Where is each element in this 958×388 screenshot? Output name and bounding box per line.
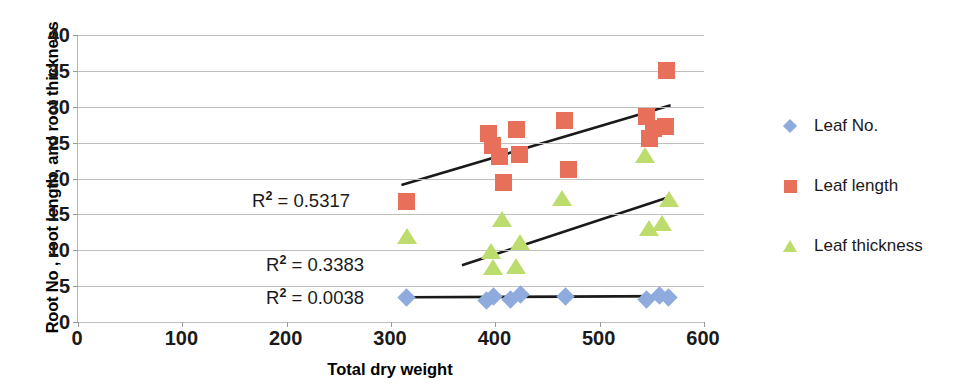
y-axis-tickmark <box>73 286 78 287</box>
legend-label: Leaf No. <box>814 116 878 136</box>
data-point-triangle <box>506 258 526 274</box>
square-glyph-icon <box>784 180 797 193</box>
legend-item-leaf-length[interactable]: Leaf length <box>778 156 953 216</box>
y-tick-label: 30 <box>30 97 70 117</box>
data-point-square <box>658 62 675 79</box>
legend-label: Leaf thickness <box>814 236 923 256</box>
gridline-horizontal <box>78 71 704 72</box>
data-point-triangle <box>492 211 512 227</box>
y-axis-tickmark <box>73 143 78 144</box>
r-squared-value: = 0.3383 <box>286 254 364 275</box>
gridline-horizontal <box>78 214 704 215</box>
plot-area <box>77 35 703 322</box>
x-tick-label: 0 <box>47 328 107 348</box>
y-tick-label: 20 <box>30 169 70 189</box>
y-axis-tickmark <box>73 179 78 180</box>
legend-item-leaf-no[interactable]: Leaf No. <box>778 96 953 156</box>
data-point-square <box>398 193 415 210</box>
x-tick-label: 300 <box>360 328 420 348</box>
diamond-glyph-icon <box>783 119 797 133</box>
data-point-square <box>511 146 528 163</box>
trendline <box>401 105 670 185</box>
data-point-triangle <box>652 215 672 231</box>
r-squared-annotation: R2 = 0.0038 <box>266 286 364 309</box>
data-point-square <box>508 121 525 138</box>
r-squared-value: = 0.5317 <box>272 190 350 211</box>
data-point-square <box>560 161 577 178</box>
r-squared-value: = 0.0038 <box>286 287 364 308</box>
legend-item-leaf-thickness[interactable]: Leaf thickness <box>778 216 953 276</box>
legend-marker-square-icon <box>778 180 802 193</box>
gridline-horizontal <box>78 250 704 251</box>
gridline-horizontal <box>78 179 704 180</box>
x-tick-label: 400 <box>464 328 524 348</box>
data-point-triangle <box>635 147 655 163</box>
triangle-glyph-icon <box>783 240 797 252</box>
legend-label: Leaf length <box>814 176 898 196</box>
r-squared-symbol: R <box>252 190 265 211</box>
y-axis-tickmark <box>73 35 78 36</box>
data-point-triangle <box>659 191 679 207</box>
y-axis-tickmark <box>73 107 78 108</box>
r-squared-annotation: R2 = 0.3383 <box>266 253 364 276</box>
data-point-square <box>641 130 658 147</box>
gridline-horizontal <box>78 286 704 287</box>
data-point-triangle <box>481 243 501 259</box>
y-axis-tickmark <box>73 250 78 251</box>
data-point-triangle <box>510 234 530 250</box>
legend-marker-diamond-icon <box>778 121 802 131</box>
gridline-horizontal <box>78 35 704 36</box>
trendline <box>407 296 675 297</box>
y-tick-label: 25 <box>30 133 70 153</box>
data-point-square <box>491 148 508 165</box>
gridline-horizontal <box>78 107 704 108</box>
y-tick-label: 10 <box>30 240 70 260</box>
y-axis-tickmark <box>73 214 78 215</box>
x-tick-label: 200 <box>256 328 316 348</box>
chart-legend: Leaf No.Leaf lengthLeaf thickness <box>778 96 953 276</box>
x-axis-title: Total dry weight <box>77 360 703 379</box>
r-squared-symbol: R <box>266 254 279 275</box>
y-tick-label: 40 <box>30 25 70 45</box>
data-point-square <box>495 174 512 191</box>
data-point-triangle <box>397 228 417 244</box>
scatter-chart: Root No , root length, and root thicknes… <box>0 0 958 388</box>
y-tick-label: 5 <box>30 276 70 296</box>
r-squared-symbol: R <box>266 287 279 308</box>
gridline-horizontal <box>78 143 704 144</box>
x-tick-label: 600 <box>673 328 733 348</box>
data-point-triangle <box>552 190 572 206</box>
data-point-square <box>657 118 674 135</box>
legend-marker-triangle-icon <box>778 240 802 252</box>
y-tick-label: 15 <box>30 204 70 224</box>
y-tick-label: 35 <box>30 61 70 81</box>
data-point-square <box>556 112 573 129</box>
data-point-triangle <box>483 259 503 275</box>
r-squared-annotation: R2 = 0.5317 <box>252 189 350 212</box>
x-tick-label: 500 <box>569 328 629 348</box>
x-tick-label: 100 <box>151 328 211 348</box>
y-axis-tickmark <box>73 71 78 72</box>
